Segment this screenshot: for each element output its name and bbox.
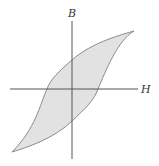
horizontal-axis-label: H xyxy=(140,83,151,96)
hysteresis-loop xyxy=(12,31,134,152)
hysteresis-diagram: B H xyxy=(0,0,159,166)
vertical-axis-label: B xyxy=(67,7,76,20)
